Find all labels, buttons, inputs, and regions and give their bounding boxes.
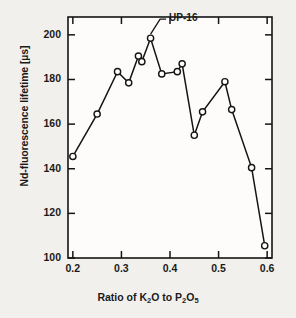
- data-point: [114, 69, 120, 75]
- data-point: [147, 35, 153, 41]
- x-tick-label: 0.4: [153, 262, 187, 274]
- y-axis-label: Nd-fluorescence lifetime [µs]: [18, 16, 30, 216]
- y-tick-label: 120: [31, 206, 61, 218]
- y-tick-label: 200: [31, 28, 61, 40]
- x-axis-label: Ratio of K2O to P2O5: [0, 291, 296, 305]
- data-point: [139, 59, 145, 65]
- y-tick-label: 140: [31, 162, 61, 174]
- data-point: [94, 111, 100, 117]
- data-point: [262, 243, 268, 249]
- data-point: [199, 109, 205, 115]
- data-point: [70, 153, 76, 159]
- data-point: [229, 107, 235, 113]
- annotation-label-up16: UP-16: [169, 12, 197, 23]
- y-tick-label: 180: [31, 72, 61, 84]
- figure-container: Nd-fluorescence lifetime [µs] Ratio of K…: [0, 0, 296, 318]
- y-tick-label: 100: [31, 251, 61, 263]
- data-point: [249, 165, 255, 171]
- data-point: [126, 80, 132, 86]
- y-tick-label: 160: [31, 117, 61, 129]
- data-point: [222, 79, 228, 85]
- data-point: [174, 69, 180, 75]
- data-point: [179, 61, 185, 67]
- x-tick-label: 0.3: [104, 262, 138, 274]
- x-tick-label: 0.2: [56, 262, 90, 274]
- data-point: [159, 71, 165, 77]
- data-point: [191, 132, 197, 138]
- x-tick-label: 0.6: [250, 262, 284, 274]
- x-tick-label: 0.5: [202, 262, 236, 274]
